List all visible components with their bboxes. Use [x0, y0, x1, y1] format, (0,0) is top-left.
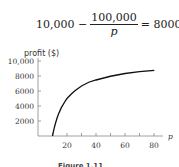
svg-text:8000: 8000: [15, 72, 34, 81]
profit-chart: 10,000 8000 6000 4000 2000 20 40 60 80 p: [0, 0, 179, 167]
x-ticks: [53, 133, 155, 136]
y-tick-labels: 10,000 8000 6000 4000 2000: [8, 57, 34, 126]
figure-caption: Figure 1.11: [58, 162, 103, 167]
svg-text:80: 80: [149, 141, 159, 150]
svg-text:10,000: 10,000: [8, 57, 34, 66]
svg-text:6000: 6000: [15, 87, 34, 96]
svg-text:4000: 4000: [15, 102, 34, 111]
profit-curve: [53, 70, 155, 136]
svg-text:2000: 2000: [15, 117, 34, 126]
svg-text:40: 40: [91, 141, 101, 150]
y-ticks: [38, 61, 41, 121]
x-tick-labels: 20 40 60 80: [62, 141, 159, 150]
svg-text:20: 20: [62, 141, 72, 150]
svg-text:60: 60: [120, 141, 130, 150]
x-axis-label: p: [168, 132, 173, 141]
